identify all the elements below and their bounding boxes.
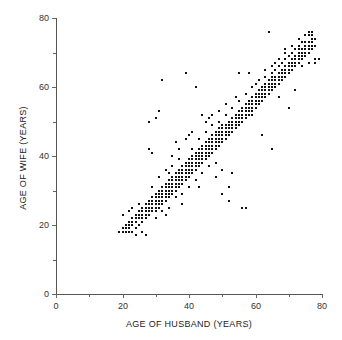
data-point bbox=[284, 76, 286, 78]
data-point bbox=[311, 31, 313, 33]
data-point bbox=[188, 172, 190, 174]
data-point bbox=[165, 169, 167, 171]
data-point bbox=[314, 58, 316, 60]
data-point bbox=[141, 231, 143, 233]
data-point bbox=[185, 172, 187, 174]
data-point bbox=[201, 155, 203, 157]
data-point bbox=[198, 138, 200, 140]
data-point bbox=[158, 196, 160, 198]
y-tick-label: 40 bbox=[39, 151, 49, 161]
data-point bbox=[291, 65, 293, 67]
data-point bbox=[171, 186, 173, 188]
data-point bbox=[205, 148, 207, 150]
data-point bbox=[181, 183, 183, 185]
data-point bbox=[195, 165, 197, 167]
data-point bbox=[161, 196, 163, 198]
data-point bbox=[191, 155, 193, 157]
data-point bbox=[171, 165, 173, 167]
data-point bbox=[165, 214, 167, 216]
data-point bbox=[264, 89, 266, 91]
data-point bbox=[304, 41, 306, 43]
data-point bbox=[238, 100, 240, 102]
data-point bbox=[308, 31, 310, 33]
data-point bbox=[264, 93, 266, 95]
data-point bbox=[161, 203, 163, 205]
data-point bbox=[288, 69, 290, 71]
data-point bbox=[122, 214, 124, 216]
data-point bbox=[208, 117, 210, 119]
data-point bbox=[191, 172, 193, 174]
data-point bbox=[141, 214, 143, 216]
data-point bbox=[128, 224, 130, 226]
data-point bbox=[258, 96, 260, 98]
data-point bbox=[281, 69, 283, 71]
data-point bbox=[161, 79, 163, 81]
data-point bbox=[198, 158, 200, 160]
data-point bbox=[225, 124, 227, 126]
data-point bbox=[185, 138, 187, 140]
data-point bbox=[281, 76, 283, 78]
data-point bbox=[248, 107, 250, 109]
data-point bbox=[201, 145, 203, 147]
data-point bbox=[241, 114, 243, 116]
data-point bbox=[195, 152, 197, 154]
data-point bbox=[218, 145, 220, 147]
data-point bbox=[122, 227, 124, 229]
data-point bbox=[145, 210, 147, 212]
data-point bbox=[145, 234, 147, 236]
data-point bbox=[241, 110, 243, 112]
data-point bbox=[288, 62, 290, 64]
data-point bbox=[248, 100, 250, 102]
data-point bbox=[215, 134, 217, 136]
data-point bbox=[211, 152, 213, 154]
data-point bbox=[171, 183, 173, 185]
data-point bbox=[165, 200, 167, 202]
data-point bbox=[175, 179, 177, 181]
data-point bbox=[251, 110, 253, 112]
data-point bbox=[308, 52, 310, 54]
data-point bbox=[128, 227, 130, 229]
x-tick-label: 40 bbox=[184, 301, 194, 311]
data-point bbox=[284, 65, 286, 67]
data-point bbox=[165, 190, 167, 192]
data-point bbox=[211, 134, 213, 136]
data-point bbox=[261, 86, 263, 88]
data-point bbox=[218, 131, 220, 133]
data-point bbox=[161, 200, 163, 202]
data-point bbox=[211, 138, 213, 140]
data-point bbox=[258, 79, 260, 81]
data-point bbox=[151, 196, 153, 198]
data-point bbox=[251, 100, 253, 102]
data-point bbox=[215, 131, 217, 133]
data-point bbox=[208, 138, 210, 140]
data-point bbox=[185, 165, 187, 167]
data-point bbox=[185, 72, 187, 74]
data-point bbox=[151, 200, 153, 202]
data-point bbox=[218, 127, 220, 129]
data-point bbox=[268, 89, 270, 91]
data-point bbox=[131, 224, 133, 226]
data-point bbox=[188, 158, 190, 160]
data-point bbox=[178, 176, 180, 178]
data-point bbox=[261, 100, 263, 102]
data-point bbox=[218, 138, 220, 140]
y-axis-label: AGE OF WIFE (YEARS) bbox=[18, 106, 28, 210]
data-point bbox=[171, 190, 173, 192]
data-point bbox=[205, 158, 207, 160]
data-point bbox=[141, 217, 143, 219]
data-point bbox=[211, 141, 213, 143]
data-point bbox=[284, 72, 286, 74]
data-point bbox=[201, 162, 203, 164]
data-point bbox=[228, 200, 230, 202]
data-point bbox=[251, 103, 253, 105]
data-point bbox=[138, 224, 140, 226]
data-point bbox=[211, 114, 213, 116]
data-point bbox=[195, 179, 197, 181]
data-point bbox=[151, 207, 153, 209]
data-point bbox=[284, 48, 286, 50]
data-point bbox=[238, 121, 240, 123]
data-point bbox=[288, 107, 290, 109]
data-point bbox=[208, 148, 210, 150]
data-point bbox=[238, 110, 240, 112]
data-point bbox=[291, 52, 293, 54]
